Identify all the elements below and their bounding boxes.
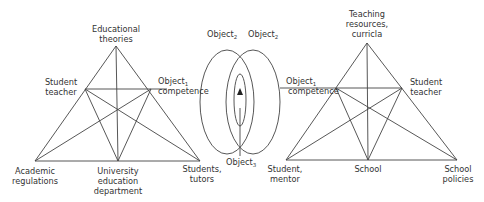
activity-systems-diagram: Educational theories Student teacher Obj…: [0, 0, 484, 202]
right-triangle: [280, 43, 457, 160]
label-object2-right: Object2: [248, 29, 278, 39]
label-object3: Object3: [226, 157, 256, 167]
label-students-tutors: Students, tutors: [180, 164, 224, 184]
label-school-policies: School policies: [438, 164, 478, 184]
label-student-teacher-left: Student teacher: [40, 77, 82, 97]
diagram-lines: [0, 0, 484, 202]
label-object2-left: Object2: [207, 29, 237, 39]
label-school: School: [348, 164, 388, 174]
left-triangle: [35, 46, 200, 161]
object-ellipses: [200, 50, 280, 156]
label-student-teacher-right: Student teacher: [405, 77, 447, 97]
label-academic-regulations: Academic regulations: [10, 166, 60, 186]
label-object1-competence-left: Object1 competence: [158, 76, 209, 96]
label-educational-theories: Educational theories: [86, 24, 146, 44]
label-university-education-department: University education department: [88, 166, 148, 196]
label-student-mentor: Student, mentor: [264, 164, 306, 184]
label-object1-competence-right: Object1 competence: [286, 76, 339, 96]
label-teaching-resources-curricula: Teaching resources, curricla: [337, 9, 397, 39]
